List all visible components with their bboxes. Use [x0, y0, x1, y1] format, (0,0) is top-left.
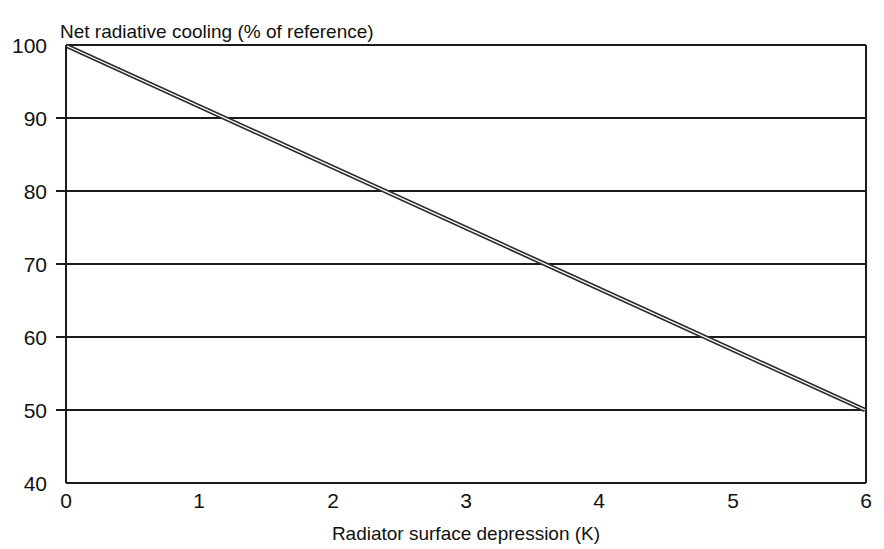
- chart-figure: Net radiative cooling (% of reference) 1…: [0, 0, 884, 549]
- y-tick-label-90: 90: [24, 107, 47, 130]
- x-tick-label-0: 0: [60, 489, 72, 512]
- y-tick-label-40: 40: [24, 472, 47, 495]
- chart-background: [0, 0, 884, 549]
- y-tick-label-50: 50: [24, 399, 47, 422]
- x-tick-label-6: 6: [860, 489, 872, 512]
- x-tick-label-5: 5: [727, 489, 739, 512]
- x-tick-label-4: 4: [593, 489, 605, 512]
- x-tick-label-2: 2: [327, 489, 339, 512]
- x-axis-title: Radiator surface depression (K): [332, 523, 600, 544]
- y-tick-label-70: 70: [24, 253, 47, 276]
- y-tick-label-60: 60: [24, 326, 47, 349]
- x-tick-label-3: 3: [460, 489, 472, 512]
- y-tick-label-100: 100: [12, 34, 47, 57]
- y-axis-title: Net radiative cooling (% of reference): [60, 21, 374, 42]
- x-tick-label-1: 1: [193, 489, 205, 512]
- y-tick-label-80: 80: [24, 180, 47, 203]
- line-chart: Net radiative cooling (% of reference) 1…: [0, 0, 884, 549]
